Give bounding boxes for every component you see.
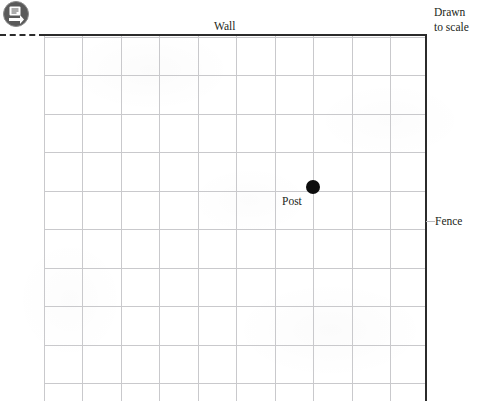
drawn-to-scale-note: Drawn to scale [434, 5, 469, 35]
document-refresh-icon[interactable] [2, 0, 30, 28]
figure-canvas: Wall Fence Post Drawn to scale [0, 0, 489, 401]
post-label: Post [282, 194, 302, 208]
drawn-to-scale-line-1: Drawn [434, 5, 469, 20]
wall-dashed-extension [0, 34, 45, 36]
post-marker-dot[interactable] [306, 180, 320, 194]
drawn-to-scale-line-2: to scale [434, 20, 469, 35]
fence-boundary-line [425, 34, 427, 401]
graph-grid [44, 36, 426, 401]
fence-tick-mark [426, 221, 435, 222]
wall-label: Wall [214, 19, 235, 33]
wall-boundary-line [44, 34, 427, 36]
fence-label: Fence [435, 214, 462, 228]
